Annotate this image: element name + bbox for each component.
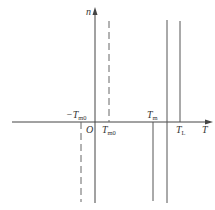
label-tl: TL [176,125,186,137]
t-axis-label: T [202,125,208,135]
mechanical-characteristic-diagram: n T O −Tm0 Tm0 Tm TL [0,0,215,210]
n-axis-arrow-icon [93,7,98,15]
n-axis-label: n [86,7,91,17]
label-tm: Tm [147,110,158,122]
origin-label: O [86,125,93,135]
label-tm0: Tm0 [102,125,116,137]
label-neg-tm0: −Tm0 [66,110,87,122]
diagram-graphics [0,0,215,210]
